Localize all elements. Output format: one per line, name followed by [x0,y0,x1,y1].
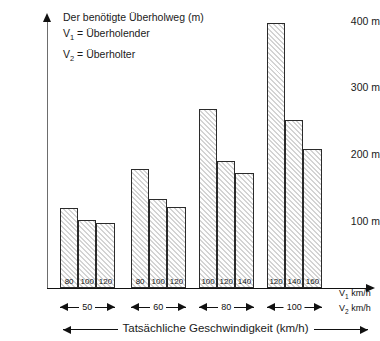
bar-v1-label: 80 [60,277,78,286]
bar [167,207,185,288]
v2-span-label: 60 [150,301,166,313]
v2-group-span: 50 [60,301,115,313]
bar [303,149,321,288]
v2-span-label: 100 [284,301,305,313]
v2-span-arrow-left-icon [199,303,207,311]
v2-span-arrow-right-icon [314,303,322,311]
legend-v1-text: = Überholender [74,27,150,39]
v2-span-label: 50 [79,301,95,313]
legend-v1-symbol: V [63,27,70,39]
v2-span-arrow-right-icon [178,303,186,311]
v2-axis-caption: V2 km/h [339,303,371,317]
bar [285,120,303,288]
v1-caption-unit: km/h [349,288,371,298]
bar [199,109,217,288]
bar [217,161,235,288]
v1-axis-caption: V1 km/h [339,288,371,302]
overtaking-distance-bar-chart: 400 m300 m200 m100 m 8010012080100120100… [0,0,380,341]
v2-span-arrow-right-icon [107,303,115,311]
legend-v2-symbol: V [63,48,70,60]
bar [267,23,285,288]
v2-group-span: 100 [267,301,322,313]
v2-span-arrow-left-icon [60,303,68,311]
bar-v1-label: 100 [199,277,217,286]
v2-group-span: 80 [199,301,254,313]
bar-v1-label: 100 [149,277,167,286]
x-axis-title: Tatsächliche Geschwindigkeit (km/h) [118,321,314,336]
v2-group-span: 60 [131,301,186,313]
legend-title: Der benötigte Überholweg (m) [63,9,204,25]
v2-span-label: 80 [218,301,234,313]
bar-v1-label: 120 [267,277,285,286]
legend-item-v1: V1 = Überholender [63,25,204,46]
legend: Der benötigte Überholweg (m) V1 = Überho… [63,9,204,67]
v2-span-arrow-left-icon [131,303,139,311]
bar-v1-label: 100 [78,277,96,286]
bar-v1-label: 120 [217,277,235,286]
v2-span-arrow-right-icon [246,303,254,311]
x-title-arrow-left-icon [63,326,71,334]
bar [60,208,78,288]
bar [235,173,253,288]
x-title-arrow-right-icon [360,326,368,334]
legend-v2-text: = Überholter [74,48,135,60]
legend-item-v2: V2 = Überholter [63,46,204,67]
bar-v1-label: 160 [303,277,321,286]
x-axis-title-row: Tatsächliche Geschwindigkeit (km/h) [63,322,368,337]
bar [149,199,167,288]
bar-v1-label: 80 [131,277,149,286]
bar-v1-label: 140 [235,277,253,286]
v2-span-arrow-left-icon [267,303,275,311]
bar-v1-label: 120 [167,277,185,286]
bar-v1-label: 140 [285,277,303,286]
bar [131,169,149,288]
v2-caption-unit: km/h [349,303,371,313]
bar-v1-label: 120 [96,277,114,286]
